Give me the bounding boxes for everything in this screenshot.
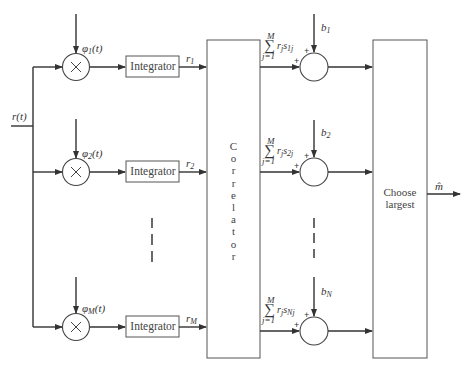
summerN-circle	[300, 317, 328, 345]
integrator1-label: Integrator	[122, 60, 184, 72]
bN-label: bN	[321, 286, 332, 299]
summer1-plus-left: +	[294, 56, 299, 66]
summer1-circle	[300, 53, 328, 81]
summerN-plus-top: +	[304, 310, 309, 320]
r1-label: r1	[186, 53, 194, 66]
summer2-plus-left: +	[294, 161, 299, 171]
summer2-plus-top: +	[304, 151, 309, 161]
basisM-label: φM(t)	[82, 303, 105, 316]
integrator2-label: Integrator	[122, 165, 184, 177]
output-label: m̂	[435, 181, 443, 192]
integratorM-label: Integrator	[122, 320, 184, 332]
rM-label: rM	[186, 313, 197, 326]
correlation-receiver-diagram: r(t) φ1(t) φ2(t) φM(t) Integrator Integr…	[0, 0, 473, 366]
b2-label: b2	[321, 127, 331, 140]
input-label: r(t)	[12, 111, 27, 122]
r2-label: r2	[186, 158, 194, 171]
summerN-plus-left: +	[294, 320, 299, 330]
summer2-circle	[300, 158, 328, 186]
basis1-label: φ1(t)	[82, 43, 102, 56]
summer1-plus-top: +	[304, 46, 309, 56]
correlator-label: C o r r e l a t o r	[207, 140, 260, 262]
choose-largest-label: Choose largest	[373, 186, 427, 210]
basis2-label: φ2(t)	[82, 148, 102, 161]
b1-label: b1	[321, 22, 331, 35]
